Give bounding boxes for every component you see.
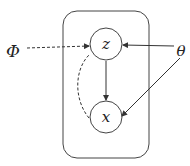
node-z-label: z	[101, 35, 110, 53]
node-x: x	[90, 101, 122, 133]
edge-x-to-z-dashed-curve	[78, 55, 89, 118]
edge-theta-to-x	[122, 58, 180, 116]
node-x-label: x	[102, 108, 111, 126]
param-theta-label: θ	[176, 42, 185, 60]
node-z: z	[90, 28, 122, 60]
edge-phi-to-z	[27, 46, 89, 48]
param-phi-label: Φ	[6, 41, 20, 61]
edge-theta-to-z	[123, 45, 174, 46]
graphical-model-diagram: z x Φ θ	[0, 0, 190, 166]
